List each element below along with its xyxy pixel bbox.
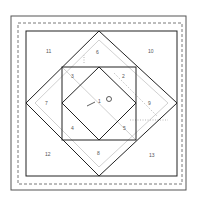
label-1: 1 bbox=[98, 98, 101, 104]
label-12: 12 bbox=[45, 151, 51, 157]
label-6: 6 bbox=[96, 49, 99, 55]
label-11: 11 bbox=[46, 48, 51, 54]
label-5: 5 bbox=[123, 125, 126, 131]
quilt-block-diagram: 1 2 3 4 5 6 7 8 9 10 11 12 13 bbox=[0, 0, 197, 197]
center-pointer bbox=[87, 102, 95, 106]
label-3: 3 bbox=[71, 73, 74, 79]
label-10: 10 bbox=[148, 48, 154, 54]
label-4: 4 bbox=[71, 125, 74, 131]
label-8: 8 bbox=[97, 150, 100, 156]
center-circle-icon bbox=[107, 97, 112, 102]
label-2: 2 bbox=[122, 73, 125, 79]
label-7: 7 bbox=[45, 100, 48, 106]
label-9: 9 bbox=[148, 100, 151, 106]
label-13: 13 bbox=[149, 152, 155, 158]
